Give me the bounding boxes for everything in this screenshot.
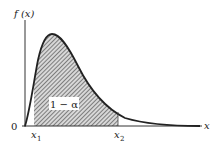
density-diagram: 1 − α f (x) x 0 x 1 x 2 — [0, 0, 217, 146]
shaded-region — [25, 34, 200, 126]
x-axis-label: x — [204, 120, 210, 131]
upper-bound-subscript: 2 — [120, 135, 124, 143]
lower-bound-subscript: 1 — [37, 135, 41, 143]
origin-label: 0 — [11, 121, 17, 132]
region-label: 1 − α — [50, 99, 78, 110]
y-axis-label: f (x) — [13, 8, 34, 19]
